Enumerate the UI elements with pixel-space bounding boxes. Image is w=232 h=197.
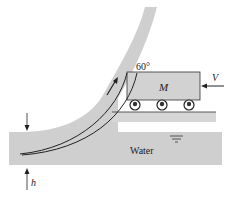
velocity-arrow-icon (201, 84, 224, 89)
angle-label: 60° (136, 61, 150, 72)
height-label: h (31, 177, 36, 188)
ground-surface (112, 112, 216, 122)
velocity-label: V (212, 72, 220, 83)
jet-cart-diagram: 60° M V Water h (0, 0, 232, 197)
mass-label: M (158, 81, 169, 93)
height-arrow-up-icon (25, 168, 30, 174)
water-label: Water (130, 145, 154, 156)
height-arrow-down-icon (25, 125, 30, 131)
